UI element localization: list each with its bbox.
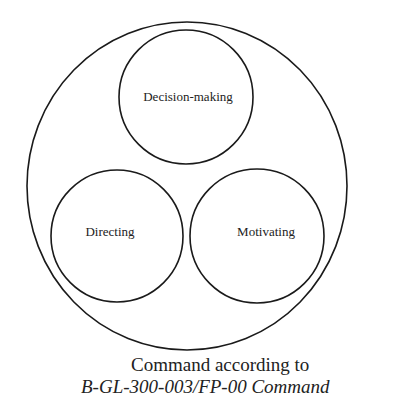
caption-title: Command according to (131, 354, 309, 376)
label-motivating: Motivating (237, 224, 295, 239)
label-decision-making: Decision-making (143, 89, 233, 104)
label-directing: Directing (85, 224, 135, 239)
command-diagram: Decision-making Directing Motivating (0, 0, 402, 402)
caption-source: B-GL-300-003/FP-00 Command (81, 376, 330, 398)
